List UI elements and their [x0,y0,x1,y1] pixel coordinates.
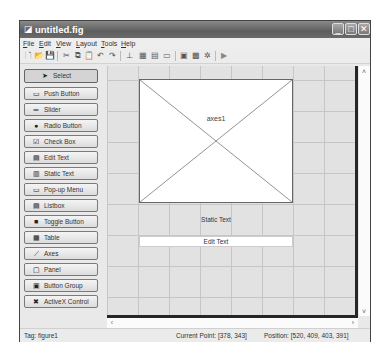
axes-icon: ⟋ [31,249,41,258]
layout-canvas[interactable]: axes1 Static Text Edit Text [107,66,355,315]
paste-icon[interactable]: 📋 [84,51,93,60]
button-group-icon: ▣ [31,281,41,290]
axes-label: axes1 [140,115,292,122]
open-icon[interactable]: 📂 [34,51,43,60]
menu-view-label: iew [61,40,72,47]
menu-file[interactable]: File [23,39,34,48]
menu-edit[interactable]: Edit [39,39,51,48]
scroll-left-icon[interactable]: ‹ [107,318,117,327]
palette-panel[interactable]: ▢ Panel [24,263,98,276]
figure-border-right [355,66,358,317]
edit-text-icon: ▤ [31,153,41,162]
palette-item-label: Listbox [44,200,65,211]
undo-icon[interactable]: ↶ [96,51,105,60]
m-file-editor-icon[interactable]: ▣ [179,51,188,60]
scroll-right-icon[interactable]: › [348,318,358,327]
cut-icon[interactable]: ✂ [62,51,71,60]
popup-menu-icon: ▭ [31,185,41,194]
menu-layout[interactable]: Layout [76,39,97,48]
palette-item-label: Slider [44,104,61,115]
palette-item-label: Pop-up Menu [44,184,83,195]
palette-check-box[interactable]: ☑ Check Box [24,135,98,148]
menu-help[interactable]: Help [121,39,135,48]
toolbar-separator [120,51,121,61]
menu-edit-label: dit [44,40,51,47]
palette-item-label: Button Group [44,280,83,291]
edit-text-component[interactable]: Edit Text [139,236,293,247]
status-current-point: Current Point: [378, 343] [176,331,247,340]
palette-item-label: Static Text [44,168,74,179]
menu-help-label: elp [126,40,135,47]
table-icon: ▦ [31,233,41,242]
axes-placeholder-cross [140,80,292,202]
menu-editor-icon[interactable]: ▦ [138,51,147,60]
static-text-component[interactable]: Static Text [139,216,293,223]
horizontal-scrollbar[interactable]: ‹ › [107,318,358,328]
static-text-icon: ▥ [31,169,41,178]
activex-control-icon: ✖ [31,297,41,306]
palette-select[interactable]: ➤ Select [24,69,98,83]
menu-tools-label: ools [105,40,118,47]
object-browser-icon[interactable]: ✲ [203,51,212,60]
align-objects-icon[interactable]: ⊥ [125,51,134,60]
select-arrow-icon: ➤ [40,71,50,80]
palette-item-label: Axes [44,248,58,259]
palette-item-label: Radio Button [44,120,82,131]
window-title: untitled.fig [35,23,84,36]
component-palette: ➤ Select ▭ Push Button ═ Slider ● Radio … [22,66,102,316]
palette-radio-button[interactable]: ● Radio Button [24,119,98,132]
menu-tools[interactable]: Tools [101,39,117,48]
scroll-up-icon[interactable]: ˄ [359,67,369,76]
palette-item-label: Select [53,70,71,81]
palette-push-button[interactable]: ▭ Push Button [24,87,98,100]
palette-listbox[interactable]: ▤ Listbox [24,199,98,212]
toggle-button-icon: ■ [31,217,41,226]
tab-order-editor-icon[interactable]: ▤ [150,51,159,60]
redo-icon[interactable]: ↷ [108,51,117,60]
push-button-icon: ▭ [31,89,41,98]
status-bar: Tag: figure1 Current Point: [378, 343] P… [20,328,370,342]
palette-item-label: Check Box [44,136,75,147]
palette-popup-menu[interactable]: ▭ Pop-up Menu [24,183,98,196]
minimize-button[interactable]: _ [332,23,344,35]
property-inspector-icon[interactable]: ▩ [191,51,200,60]
palette-static-text[interactable]: ▥ Static Text [24,167,98,180]
run-figure-icon[interactable]: ▶ [219,51,228,60]
scroll-down-icon[interactable]: ˅ [359,307,369,316]
palette-item-label: Push Button [44,88,79,99]
palette-item-label: Toggle Button [44,216,84,227]
palette-edit-text[interactable]: ▤ Edit Text [24,151,98,164]
menu-view[interactable]: View [56,39,71,48]
palette-table[interactable]: ▦ Table [24,231,98,244]
toolbar-separator [57,51,58,61]
status-tag: Tag: figure1 [24,331,58,340]
vertical-scrollbar[interactable]: ˄ ˅ [359,66,370,316]
maximize-button[interactable]: □ [345,23,357,35]
menu-layout-label: ayout [80,40,97,47]
palette-item-label: Panel [44,264,61,275]
matlab-figure-icon: ◪ [24,25,33,34]
status-position: Position: [520, 409, 403, 391] [264,331,349,340]
toolbar-editor-icon[interactable]: ▭ [162,51,171,60]
listbox-icon: ▤ [31,201,41,210]
copy-icon[interactable]: ⧉ [73,51,82,60]
title-bar[interactable]: ◪ untitled.fig _ □ ✕ [20,21,370,38]
palette-slider[interactable]: ═ Slider [24,103,98,116]
toolbar-separator [175,51,176,61]
palette-axes[interactable]: ⟋ Axes [24,247,98,260]
check-box-icon: ☑ [31,137,41,146]
save-icon[interactable]: 💾 [45,51,54,60]
menu-bar: File Edit View Layout Tools Help [20,38,370,49]
axes1-component[interactable]: axes1 [139,79,293,203]
palette-button-group[interactable]: ▣ Button Group [24,279,98,292]
palette-activex-control[interactable]: ✖ ActiveX Control [24,295,98,308]
new-icon[interactable]: 🗋 [23,51,32,60]
toolbar: 🗋 📂 💾 ✂ ⧉ 📋 ↶ ↷ ⊥ ▦ ▤ ▭ ▣ ▩ ✲ ▶ [20,49,370,64]
close-button[interactable]: ✕ [358,23,370,35]
panel-icon: ▢ [31,265,41,274]
toolbar-separator [215,51,216,61]
slider-icon: ═ [31,105,41,114]
palette-item-label: Edit Text [44,152,69,163]
guide-window: ◪ untitled.fig _ □ ✕ File Edit View Layo… [19,20,371,342]
palette-toggle-button[interactable]: ■ Toggle Button [24,215,98,228]
